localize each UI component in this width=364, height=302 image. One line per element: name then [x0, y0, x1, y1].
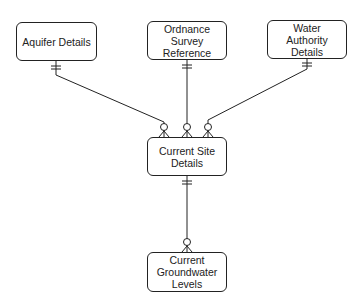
- relationship-site-groundwater: [182, 176, 192, 252]
- entity-label: Current Site Details: [159, 145, 215, 169]
- relationship-aquifer-site: [51, 61, 169, 137]
- relationship-ordnance-site: [182, 60, 192, 137]
- relationship-water-site: [203, 59, 312, 137]
- entity-label: Current Groundwater Levels: [157, 254, 218, 290]
- entity-water-authority-details[interactable]: Water Authority Details: [267, 20, 347, 59]
- entity-aquifer-details[interactable]: Aquifer Details: [16, 22, 97, 61]
- entity-current-groundwater-levels[interactable]: Current Groundwater Levels: [147, 252, 227, 292]
- entity-label: Aquifer Details: [22, 36, 90, 48]
- entity-label: Ordnance Survey Reference: [163, 23, 211, 59]
- entity-label: Water Authority Details: [286, 22, 327, 58]
- entity-current-site-details[interactable]: Current Site Details: [147, 137, 227, 176]
- entity-ordnance-survey-reference[interactable]: Ordnance Survey Reference: [147, 21, 227, 60]
